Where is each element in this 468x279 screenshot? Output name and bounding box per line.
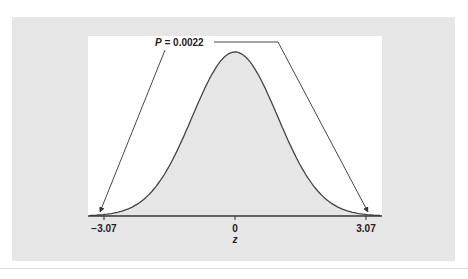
tick-label-left: −3.07: [91, 223, 117, 234]
normal-curve-chart: −3.07 0 3.07 z P = 0.0022: [0, 0, 468, 279]
axis-label-z: z: [232, 234, 238, 245]
p-value-annotation: P = 0.0022: [155, 37, 204, 48]
tick-label-right: 3.07: [356, 223, 376, 234]
tick-label-center: 0: [232, 223, 238, 234]
